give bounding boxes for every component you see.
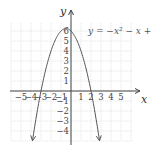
y-tick-label: −4 — [56, 126, 69, 136]
y-tick-label: −3 — [56, 116, 69, 126]
x-tick-label: 4 — [108, 92, 113, 102]
x-tick-label: 3 — [98, 92, 103, 102]
x-tick-label: 1 — [78, 92, 83, 102]
y-tick-label: 6 — [64, 26, 69, 36]
y-tick-label: 5 — [64, 36, 69, 46]
y-tick-label: 4 — [64, 46, 69, 56]
y-tick-label: 1 — [64, 76, 69, 86]
y-axis-label: y — [59, 5, 67, 18]
parabola-graph: −5−4−3−2−112345−4−3−2−1123456 y = −x² − … — [0, 0, 154, 148]
y-tick-label: 2 — [64, 66, 69, 76]
equation-label: y = −x² − x + 6 — [87, 26, 154, 36]
y-tick-label: −2 — [56, 106, 69, 116]
grid — [11, 23, 133, 141]
y-tick-label: −1 — [56, 96, 69, 106]
x-tick-label: 5 — [118, 92, 123, 102]
y-tick-label: 3 — [64, 56, 69, 66]
x-axis-label: x — [141, 93, 148, 106]
